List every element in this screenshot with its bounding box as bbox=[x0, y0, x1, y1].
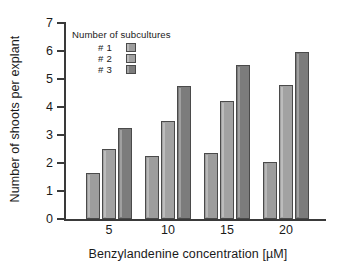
bar bbox=[263, 162, 277, 219]
legend-entry-swatch bbox=[126, 54, 136, 63]
legend-entry: # 3 bbox=[98, 64, 192, 75]
y-axis-tick-label: 2 bbox=[36, 157, 53, 170]
y-axis-tick bbox=[57, 50, 64, 51]
bar bbox=[295, 52, 309, 219]
y-axis-tick-label: 7 bbox=[36, 17, 53, 30]
legend-entry-label: # 2 bbox=[98, 53, 122, 64]
legend: Number of subcultures # 1# 2# 3 bbox=[72, 29, 192, 75]
y-axis-tick bbox=[57, 106, 64, 107]
x-axis-tick-label: 10 bbox=[145, 224, 191, 237]
y-axis-tick-label: 0 bbox=[36, 213, 53, 226]
y-axis-tick-label: 4 bbox=[36, 101, 53, 114]
legend-swatch-highlight bbox=[127, 55, 129, 62]
bar-highlight bbox=[120, 130, 122, 217]
legend-entry-label: # 1 bbox=[98, 42, 122, 53]
legend-entry-label: # 3 bbox=[98, 64, 122, 75]
bar bbox=[118, 128, 132, 219]
x-axis-tick-label: 15 bbox=[204, 224, 250, 237]
legend-entries: # 1# 2# 3 bbox=[72, 42, 192, 75]
bar-highlight bbox=[104, 151, 106, 217]
y-axis-tick bbox=[57, 22, 64, 23]
y-axis-tick bbox=[57, 218, 64, 219]
bar-highlight bbox=[265, 164, 267, 217]
bar bbox=[145, 156, 159, 219]
bar bbox=[279, 85, 293, 219]
bar bbox=[220, 101, 234, 219]
x-axis-line bbox=[64, 219, 326, 221]
bar bbox=[204, 153, 218, 219]
legend-swatch-highlight bbox=[127, 66, 129, 73]
y-axis-tick bbox=[57, 78, 64, 79]
bar-highlight bbox=[297, 54, 299, 217]
x-axis-title: Benzylandenine concentration [µM] bbox=[52, 247, 324, 261]
bar-chart-figure: Number of shoots per explant Benzylanden… bbox=[0, 0, 339, 274]
bar-highlight bbox=[147, 158, 149, 217]
bar-highlight bbox=[238, 67, 240, 217]
legend-entry: # 2 bbox=[98, 53, 192, 64]
bar-highlight bbox=[179, 88, 181, 217]
legend-entry: # 1 bbox=[98, 42, 192, 53]
bar bbox=[236, 65, 250, 219]
legend-entry-swatch bbox=[126, 43, 136, 52]
bar bbox=[102, 149, 116, 219]
bar-highlight bbox=[281, 87, 283, 217]
legend-swatch-highlight bbox=[127, 44, 129, 51]
bar bbox=[177, 86, 191, 219]
y-axis-tick bbox=[57, 162, 64, 163]
bar-highlight bbox=[163, 123, 165, 217]
y-axis-tick-label: 3 bbox=[36, 129, 53, 142]
legend-title: Number of subcultures bbox=[72, 29, 192, 40]
bar bbox=[161, 121, 175, 219]
bar-highlight bbox=[222, 103, 224, 217]
y-axis-tick bbox=[57, 134, 64, 135]
legend-entry-swatch bbox=[126, 65, 136, 74]
y-axis-title: Number of shoots per explant bbox=[4, 10, 26, 228]
x-axis-tick-label: 20 bbox=[263, 224, 309, 237]
y-axis-tick-label: 5 bbox=[36, 73, 53, 86]
x-axis-tick-label: 5 bbox=[86, 224, 132, 237]
y-axis-tick-label: 1 bbox=[36, 185, 53, 198]
y-axis-tick-label: 6 bbox=[36, 45, 53, 58]
bar-highlight bbox=[206, 155, 208, 217]
bar-highlight bbox=[88, 175, 90, 217]
y-axis-tick bbox=[57, 190, 64, 191]
bar bbox=[86, 173, 100, 219]
